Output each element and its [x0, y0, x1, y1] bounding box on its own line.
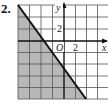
coordinate-plane: y 2 O 2 x [0, 0, 108, 104]
y-axis-label: y [55, 2, 61, 13]
x-tick-label: 2 [73, 42, 78, 53]
origin-label: O [56, 42, 63, 53]
y-tick-label: 2 [57, 23, 62, 34]
x-axis-label: x [101, 42, 107, 53]
